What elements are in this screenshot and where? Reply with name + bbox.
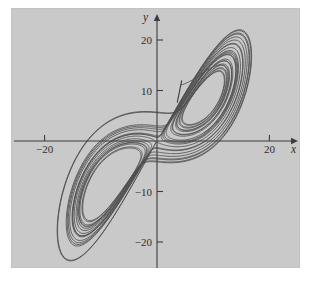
x-axis-tick-label: −20 — [36, 143, 54, 155]
y-axis-tick-label: −20 — [135, 236, 153, 248]
lorenz-attractor-figure: −20202010−10−20xy — [0, 0, 314, 281]
trajectory-curve — [57, 30, 251, 261]
trajectory-group — [57, 30, 251, 261]
x-axis-name: x — [290, 143, 297, 155]
y-axis-tick-label: −10 — [135, 186, 153, 198]
y-axis-tick-label: 20 — [141, 34, 153, 46]
y-axis-tick-label: 10 — [141, 85, 153, 97]
y-axis-arrow-icon — [154, 14, 160, 21]
y-axis-name: y — [142, 11, 149, 24]
x-axis-tick-label: 20 — [264, 143, 276, 155]
plot-canvas: −20202010−10−20xy — [0, 0, 314, 281]
axes-group — [14, 14, 298, 268]
